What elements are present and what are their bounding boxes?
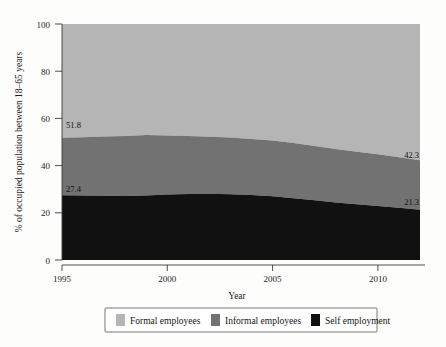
annotation-51-8: 51.8	[66, 120, 81, 130]
annotation-27-4: 27.4	[66, 184, 82, 194]
y-tick-label-100: 100	[37, 20, 51, 30]
x-tick-label-2005: 2005	[264, 274, 283, 284]
legend-swatch-formal-employees	[116, 314, 125, 326]
plot-area	[62, 24, 420, 260]
stacked-area-chart: 100 80 60 40 20 0 % of occupied populati…	[0, 0, 446, 347]
y-tick-label-80: 80	[41, 67, 51, 77]
x-tick-label-2000: 2000	[158, 274, 177, 284]
annotation-21-3: 21.3	[404, 197, 419, 207]
y-tick-label-0: 0	[46, 256, 51, 266]
legend-label-self-employment: Self employment	[325, 316, 391, 326]
legend: Formal employees Informal employees Self…	[105, 308, 391, 332]
annotation-42-3: 42.3	[404, 150, 419, 160]
y-axis-title: % of occupied population between 18–65 y…	[14, 51, 24, 232]
x-tick-label-1995: 1995	[53, 274, 72, 284]
figure-container: 100 80 60 40 20 0 % of occupied populati…	[0, 0, 446, 347]
x-tick-label-2010: 2010	[369, 274, 388, 284]
legend-swatch-informal-employees	[211, 314, 220, 326]
legend-swatch-self-employment	[311, 314, 320, 326]
legend-label-informal-employees: Informal employees	[225, 316, 302, 326]
y-tick-label-60: 60	[41, 114, 51, 124]
y-tick-label-40: 40	[41, 161, 51, 171]
legend-label-formal-employees: Formal employees	[130, 316, 201, 326]
x-axis-title: Year	[228, 291, 246, 301]
y-tick-label-20: 20	[41, 208, 51, 218]
